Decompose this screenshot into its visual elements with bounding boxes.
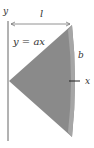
y-axis-label: y bbox=[2, 6, 9, 16]
cone-diagram: y l y = ax b x bbox=[0, 0, 94, 148]
equation-label: y = ax bbox=[12, 36, 45, 47]
x-axis-label: x bbox=[85, 76, 90, 86]
radius-label: b bbox=[78, 50, 84, 60]
length-label: l bbox=[40, 8, 43, 19]
